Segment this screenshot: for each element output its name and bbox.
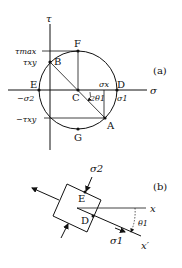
point-b (48, 60, 51, 63)
panel-b: E D σ2 σ1 x x′ θ1 (b) (32, 163, 167, 251)
panel-a: τ σ F B E C D A G τmax τxy −τxy −σ2 σx σ… (8, 13, 167, 150)
label-e: E (30, 79, 37, 90)
label-angle: 2θ1 (89, 94, 105, 103)
label-d: D (117, 79, 125, 90)
label-g: G (74, 132, 82, 143)
point-g (76, 127, 79, 130)
label-c: C (72, 92, 80, 103)
label-theta: θ1 (138, 219, 148, 228)
sigma2-arrow-top (86, 177, 92, 191)
tau-axis-label: τ (46, 13, 52, 24)
point-f (76, 49, 79, 52)
label-a: A (106, 120, 115, 131)
label-tau-max: τmax (15, 47, 37, 56)
label-f: F (74, 38, 81, 49)
label-x-prime: x′ (141, 240, 150, 251)
label-sigma2-b: σ2 (90, 163, 103, 174)
theta-arc (131, 208, 135, 232)
panel-b-tag: (b) (153, 181, 167, 192)
sigma-axis-label: σ (150, 85, 158, 96)
mohr-circle-diagram: τ σ F B E C D A G τmax τxy −τxy −σ2 σx σ… (0, 0, 182, 268)
label-sigma1: σ1 (117, 94, 128, 103)
panel-a-tag: (a) (153, 65, 167, 76)
label-x: x (150, 203, 156, 214)
label-neg-sigma2: −σ2 (17, 94, 34, 103)
sigma2-arrow-bottom (61, 224, 68, 238)
sigma1-arrow-left (32, 188, 59, 200)
label-b: B (54, 56, 61, 67)
point-e (37, 88, 40, 91)
label-sigma-x: σx (99, 80, 109, 89)
label-d-b: D (81, 215, 89, 226)
label-sigma1-b: σ1 (110, 235, 123, 246)
label-tau-xy: τxy (23, 58, 37, 67)
label-e-b: E (78, 193, 85, 204)
point-d-b (92, 215, 95, 218)
label-neg-tau-xy: −τxy (16, 115, 37, 124)
